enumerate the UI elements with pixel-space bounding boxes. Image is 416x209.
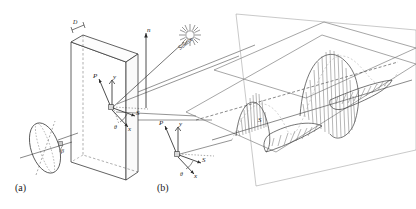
scatter-point-a: [109, 105, 114, 110]
construction-line-b: [179, 154, 214, 156]
wave-plane-vertical: [236, 14, 416, 186]
slab-solid: [71, 35, 138, 180]
figure-canvas: D n Source P y S x θ β (a) P y S x θ S (…: [0, 0, 416, 209]
diagram-vector-art: [0, 0, 416, 209]
thickness-dimension: [71, 22, 85, 33]
y-axis-b: [175, 127, 181, 152]
ellipse-marker: [59, 142, 63, 146]
wave-lobe-2: [264, 123, 322, 152]
source-starburst: [179, 24, 201, 46]
wave-lobe-1: [236, 93, 270, 152]
wave-lobe-set: [232, 50, 398, 152]
wave-propagation-axis: [196, 62, 412, 140]
scatter-point-b: [175, 152, 180, 157]
field-vector-b: [165, 126, 176, 152]
wave-origin-link: [180, 140, 232, 154]
wave-plane-lower: [186, 35, 416, 152]
wave-lobe-3: [300, 50, 359, 138]
polarization-ellipse: [20, 119, 72, 177]
theta-arc-b: [186, 161, 193, 169]
